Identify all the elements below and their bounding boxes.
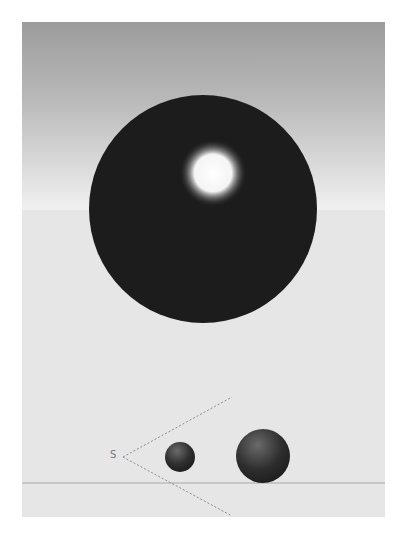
scene-drawing xyxy=(0,0,402,540)
small-sphere xyxy=(165,442,195,472)
source-label: S xyxy=(110,449,116,460)
big-sphere xyxy=(236,429,290,483)
large-sphere xyxy=(89,95,317,323)
sphere-highlight xyxy=(179,139,247,207)
